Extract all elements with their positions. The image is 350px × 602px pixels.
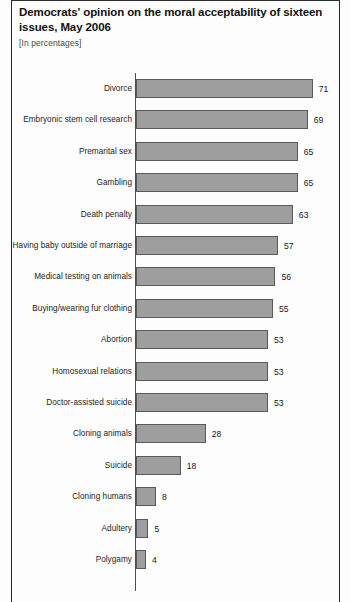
bar-row: Cloning humans8 xyxy=(0,487,350,507)
bar-category-label: Adultery xyxy=(12,524,132,534)
bar-value-label: 53 xyxy=(274,398,284,408)
bar-category-label: Cloning animals xyxy=(12,430,132,440)
bar-row: Buying/wearing fur clothing55 xyxy=(0,299,350,319)
bar xyxy=(136,487,156,506)
bar-category-label: Suicide xyxy=(12,461,132,471)
bar-value-label: 65 xyxy=(304,147,314,157)
bar-value-label: 69 xyxy=(314,115,324,125)
bar-value-label: 57 xyxy=(284,241,294,251)
bar-row: Gambling65 xyxy=(0,173,350,193)
bar xyxy=(136,424,206,443)
bar-row: Having baby outside of marriage57 xyxy=(0,236,350,256)
bar-row: Death penalty63 xyxy=(0,205,350,225)
bar-row: Adultery5 xyxy=(0,519,350,539)
bar-row: Suicide18 xyxy=(0,456,350,476)
bar xyxy=(136,79,313,98)
bar-value-label: 55 xyxy=(279,304,289,314)
bar xyxy=(136,299,273,318)
bar-value-label: 56 xyxy=(281,272,291,282)
bar-category-label: Medical testing on animals xyxy=(12,273,132,283)
bar-value-label: 71 xyxy=(319,84,329,94)
bar-row: Polygamy4 xyxy=(0,550,350,570)
bar xyxy=(136,205,293,224)
bar-value-label: 63 xyxy=(299,210,309,220)
bar-category-label: Premarital sex xyxy=(12,147,132,157)
bar-category-label: Polygamy xyxy=(12,555,132,565)
bar-value-label: 65 xyxy=(304,178,314,188)
bar-row: Divorce71 xyxy=(0,79,350,99)
bar-category-label: Embryonic stem cell research xyxy=(12,116,132,126)
bar-category-label: Cloning humans xyxy=(12,492,132,502)
bar xyxy=(136,236,278,255)
bar-category-label: Buying/wearing fur clothing xyxy=(12,304,132,314)
bar-value-label: 53 xyxy=(274,367,284,377)
bar-value-label: 5 xyxy=(154,524,159,534)
bar-row: Embryonic stem cell research69 xyxy=(0,110,350,130)
bar-row: Cloning animals28 xyxy=(0,424,350,444)
bar-value-label: 28 xyxy=(212,429,222,439)
bar-value-label: 4 xyxy=(152,555,157,565)
bar-category-label: Having baby outside of marriage xyxy=(12,241,132,251)
bar xyxy=(136,142,298,161)
bar-category-label: Death penalty xyxy=(12,210,132,220)
bar-category-label: Abortion xyxy=(12,335,132,345)
bar-category-label: Divorce xyxy=(12,84,132,94)
bar xyxy=(136,173,298,192)
bar-value-label: 18 xyxy=(187,461,197,471)
chart-page: Democrats' opinion on the moral acceptab… xyxy=(0,0,350,602)
bar-chart-plot-area: Divorce71Embryonic stem cell research69P… xyxy=(0,0,350,602)
bar-row: Doctor-assisted suicide53 xyxy=(0,393,350,413)
bar xyxy=(136,519,148,538)
bar xyxy=(136,456,181,475)
bar-category-label: Homosexual relations xyxy=(12,367,132,377)
bar-category-label: Doctor-assisted suicide xyxy=(12,398,132,408)
bar-value-label: 8 xyxy=(162,492,167,502)
bar-row: Premarital sex65 xyxy=(0,142,350,162)
bar xyxy=(136,267,275,286)
bar-row: Abortion53 xyxy=(0,330,350,350)
bar-category-label: Gambling xyxy=(12,178,132,188)
bar-row: Homosexual relations53 xyxy=(0,362,350,382)
bar xyxy=(136,330,268,349)
bar-row: Medical testing on animals56 xyxy=(0,267,350,287)
bar xyxy=(136,362,268,381)
bar xyxy=(136,393,268,412)
bar xyxy=(136,110,308,129)
bar-value-label: 53 xyxy=(274,335,284,345)
bar xyxy=(136,550,146,569)
